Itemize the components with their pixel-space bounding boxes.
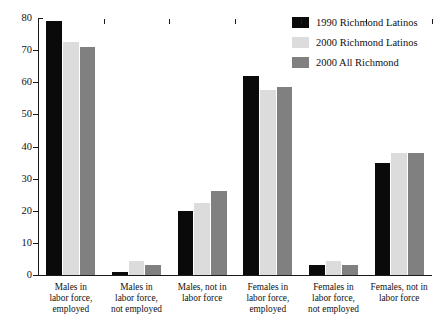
x-axis-tick [38, 19, 39, 24]
category-label-line: labor force, [34, 293, 108, 304]
y-axis-tick [33, 50, 38, 51]
x-axis-tick [104, 19, 105, 24]
bar-chart: 1990 Richmond Latinos2000 Richmond Latin… [0, 0, 441, 324]
x-axis-category-label: Males inlabor force,not employed [100, 282, 174, 316]
x-axis-tick [432, 19, 433, 24]
category-label-line: Females, not in [362, 282, 436, 293]
y-axis-tick [33, 243, 38, 244]
x-axis-tick [366, 19, 367, 24]
x-axis-category-label: Females inlabor force,employed [231, 282, 305, 316]
y-axis-tick-label: 60 [4, 77, 32, 87]
category-label-line: not employed [100, 304, 174, 315]
bar [277, 87, 293, 275]
bar [129, 261, 145, 275]
bar [194, 203, 210, 275]
x-axis-tick [301, 19, 302, 24]
y-axis-tick-label: 50 [4, 109, 32, 119]
bar [63, 42, 79, 275]
category-label-line: employed [34, 304, 108, 315]
x-axis-category-label: Males inlabor force,employed [34, 282, 108, 316]
y-axis-tick-label: 40 [4, 142, 32, 152]
x-axis-tick [235, 19, 236, 24]
y-axis-tick [33, 275, 38, 276]
y-axis-tick-label: 0 [4, 270, 32, 280]
x-axis-category-label: Females, not inlabor force [362, 282, 436, 304]
bar [145, 265, 161, 275]
y-axis-tick [33, 82, 38, 83]
y-axis-tick [33, 211, 38, 212]
bar [243, 76, 259, 275]
y-axis-tick [33, 114, 38, 115]
bar [211, 191, 227, 275]
category-label-line: not employed [297, 304, 371, 315]
bar [326, 261, 342, 275]
bar [80, 47, 96, 275]
category-label-line: labor force, [100, 293, 174, 304]
bar [112, 272, 128, 275]
bar [342, 265, 358, 275]
bar [260, 90, 276, 275]
y-axis-tick [33, 147, 38, 148]
x-axis-category-label: Males, not inlabor force [165, 282, 239, 304]
category-label-line: Males, not in [165, 282, 239, 293]
category-label-line: Males in [34, 282, 108, 293]
category-label-line: labor force [165, 293, 239, 304]
bar [46, 21, 62, 275]
plot-area: 01020304050607080 [38, 18, 432, 275]
bar [375, 163, 391, 275]
y-axis-tick [33, 179, 38, 180]
category-label-line: labor force [362, 293, 436, 304]
category-label-line: labor force, [297, 293, 371, 304]
bar [309, 265, 325, 275]
x-axis-tick [169, 19, 170, 24]
y-axis-tick-label: 20 [4, 206, 32, 216]
y-axis-tick-label: 30 [4, 174, 32, 184]
y-axis-line [38, 18, 39, 275]
y-axis-tick-label: 70 [4, 45, 32, 55]
x-axis-category-label: Females inlabor force,not employed [297, 282, 371, 316]
category-label-line: labor force, [231, 293, 305, 304]
bar [408, 153, 424, 275]
x-axis-line [38, 275, 432, 276]
category-label-line: Females in [297, 282, 371, 293]
y-axis-tick-label: 80 [4, 13, 32, 23]
category-label-line: Males in [100, 282, 174, 293]
y-axis-tick-label: 10 [4, 238, 32, 248]
bar [178, 211, 194, 275]
category-label-line: employed [231, 304, 305, 315]
category-label-line: Females in [231, 282, 305, 293]
bar [391, 153, 407, 275]
